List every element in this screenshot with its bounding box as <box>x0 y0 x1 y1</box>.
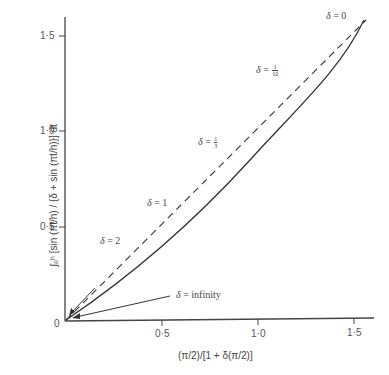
y-axis-title: ∫₀ʰ [sin (πt/h) / {δ + sin (πt/h)}] dt <box>48 71 59 321</box>
annotation-text: = infinity <box>181 289 221 300</box>
y-tick-label: 1·5 <box>40 30 54 41</box>
fraction: 110 <box>272 64 278 77</box>
annotation-delta-2: δ = 2 <box>100 235 120 246</box>
dashed-reference-line <box>66 20 366 320</box>
x-tick-label: 0·5 <box>155 328 169 339</box>
annotation-delta-1: δ = 1 <box>147 197 167 208</box>
x-axis <box>65 318 374 321</box>
d2-arrow-line <box>71 288 95 313</box>
annotation-delta-0: δ = 0 <box>326 10 346 21</box>
x-axis-title: (π/2)/[1 + δ(π/2)] <box>178 350 253 361</box>
infinity-arrow-line <box>76 296 170 317</box>
annotation-delta-tenth: δ = 110 <box>256 64 278 77</box>
annotation-text: = <box>203 136 214 147</box>
annotation-text: = 2 <box>105 235 121 246</box>
annotation-delta-infinity: δ = infinity <box>176 289 221 300</box>
annotation-text: = 0 <box>331 10 347 21</box>
denominator: 3 <box>214 142 217 149</box>
numerator: 1 <box>214 136 217 142</box>
denominator: 10 <box>272 70 278 77</box>
annotation-text: = 1 <box>152 197 168 208</box>
x-tick-label: 1·5 <box>347 327 361 338</box>
annotation-text: = <box>261 64 272 75</box>
fraction: 13 <box>214 136 217 149</box>
x-tick-label: 1·0 <box>251 328 265 339</box>
annotation-delta-third: δ = 13 <box>198 136 217 149</box>
